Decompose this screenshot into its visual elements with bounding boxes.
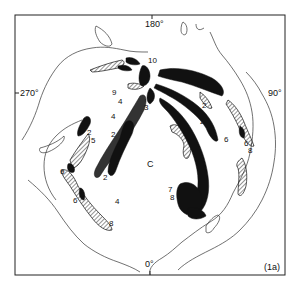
region-number: 6 [73, 197, 77, 205]
region-number: 8 [109, 220, 113, 228]
region-number: 2 [200, 118, 204, 126]
region-number: 10 [148, 57, 157, 65]
region-number: 2 [202, 102, 206, 110]
region-number: 4 [111, 113, 115, 121]
region-number: 4 [118, 98, 122, 106]
polar-map-canvas [0, 0, 303, 286]
region-number: 4 [117, 146, 121, 154]
region-number: 4 [184, 122, 188, 130]
axis-label-left: 270° [20, 89, 39, 98]
region-number: 8 [248, 147, 252, 155]
region-number: 2 [103, 174, 107, 182]
axis-label-bottom: 0° [145, 260, 154, 269]
region-number: 3 [144, 104, 148, 112]
axis-label-right: 90° [268, 89, 282, 98]
region-number: 3 [144, 77, 148, 85]
region-number: 4 [115, 198, 119, 206]
center-label: C [147, 160, 154, 169]
axis-label-top: 180° [145, 20, 164, 29]
region-number: 6 [224, 136, 228, 144]
polar-map-figure: 180° 270° 90° 0° C (1a) 10 3 3 9 4 4 2 5… [0, 0, 303, 286]
region-number: 6 [60, 168, 64, 176]
region-number: 6 [192, 140, 196, 148]
region-number: 5 [91, 137, 95, 145]
region-number: 8 [170, 194, 174, 202]
panel-label: (1a) [264, 262, 280, 272]
region-number: 9 [112, 89, 116, 97]
region-number: 2 [111, 131, 115, 139]
